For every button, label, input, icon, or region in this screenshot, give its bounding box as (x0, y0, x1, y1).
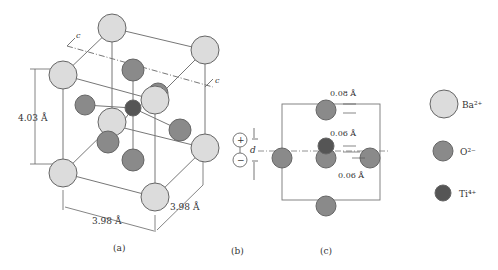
plus-sign: + (237, 135, 245, 145)
d-label: d (250, 145, 256, 155)
legend-o: O²⁻ (460, 147, 476, 157)
displacement-view (258, 100, 390, 216)
ba-legend-swatch (430, 90, 458, 118)
axis-label-c1: c (76, 31, 81, 40)
legend-ba: Ba²⁺ (462, 100, 483, 110)
panel-c-label: (c) (320, 246, 332, 256)
legend (430, 90, 458, 201)
panel-b-label: (b) (231, 246, 244, 256)
panel-a-label: (a) (113, 243, 125, 253)
top-displacement: 0.08 Å (330, 89, 356, 98)
o-legend-swatch (433, 141, 453, 161)
o-displacement: 0.06 Å (338, 171, 364, 180)
minus-sign: − (237, 155, 245, 165)
ti-legend-swatch (435, 185, 451, 201)
axis-label-c2: c (215, 76, 220, 85)
depth-dimension: 3.98 Å (170, 201, 200, 212)
ti-displacement: 0.06 Å (330, 129, 356, 138)
perovskite-diagram: c c 4.03 Å 3.98 Å 3.98 Å (a) + − d (b) (0, 0, 498, 270)
legend-ti: Ti⁴⁺ (459, 189, 476, 199)
width-dimension: 3.98 Å (92, 215, 122, 226)
height-dimension: 4.03 Å (18, 112, 48, 123)
atoms-a (49, 14, 219, 211)
